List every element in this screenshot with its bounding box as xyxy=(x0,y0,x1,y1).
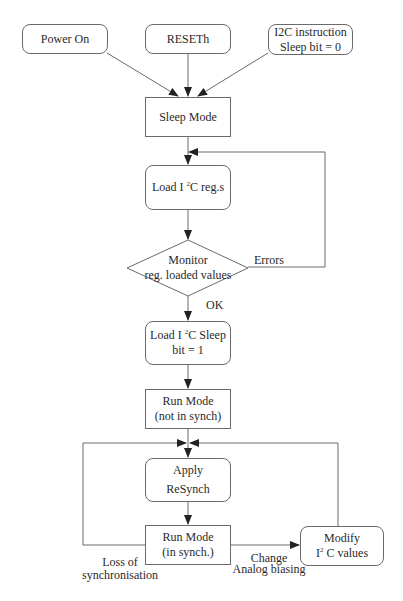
apply-resynch-line1: Apply xyxy=(173,461,203,480)
run-mode-not-synch-node: Run Mode (not in synch) xyxy=(145,389,231,429)
modify-i2c-line2: I2 C values xyxy=(316,546,368,561)
i2c-instruction-line2: Sleep bit = 0 xyxy=(280,40,341,55)
load-i2c-sleep-line2: bit = 1 xyxy=(172,343,203,358)
sleep-mode-label: Sleep Mode xyxy=(159,110,217,125)
power-on-node: Power On xyxy=(22,24,108,54)
modify-i2c-node: Modify I2 C values xyxy=(300,526,384,566)
run-mode-not-synch-line1: Run Mode xyxy=(163,394,214,409)
modify-i2c-line1: Modify xyxy=(324,531,360,546)
loss-of-synch-label: Loss of synchronisation xyxy=(68,556,172,582)
arrow-i2c-to-sleep xyxy=(198,53,268,96)
sleep-mode-node: Sleep Mode xyxy=(145,97,231,137)
run-mode-not-synch-line2: (not in synch) xyxy=(155,409,222,424)
reseth-node: RESETh xyxy=(145,24,231,54)
run-mode-synch-line1: Run Mode xyxy=(163,530,214,545)
connector-layer xyxy=(0,0,403,601)
change-biasing-label: Change Analog biasing xyxy=(232,553,306,575)
apply-resynch-line2: ReSynch xyxy=(166,480,209,499)
errors-label: Errors xyxy=(254,254,284,267)
ok-label: OK xyxy=(206,299,223,312)
load-i2c-regs-label: Load I 2C reg.s xyxy=(152,180,224,195)
monitor-label: Monitor reg. loaded values xyxy=(127,253,249,283)
load-i2c-sleep-node: Load I 2C Sleep bit = 1 xyxy=(145,321,231,365)
reseth-label: RESETh xyxy=(167,32,210,47)
load-i2c-regs-node: Load I 2C reg.s xyxy=(145,165,231,210)
i2c-instruction-line1: I2C instruction xyxy=(274,25,346,40)
load-i2c-sleep-line1: Load I 2C Sleep xyxy=(150,328,226,343)
apply-resynch-node: Apply ReSynch xyxy=(145,458,231,502)
power-on-label: Power On xyxy=(41,32,89,47)
i2c-instruction-node: I2C instruction Sleep bit = 0 xyxy=(268,24,353,55)
arrow-power-to-sleep xyxy=(107,53,178,96)
